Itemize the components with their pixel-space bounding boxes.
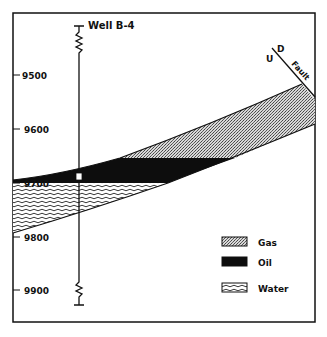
- perforation-marker: [76, 173, 82, 180]
- fault-up-label: U: [266, 54, 273, 64]
- tick-9600: 9600: [24, 125, 49, 135]
- legend-oil-label: Oil: [258, 258, 272, 268]
- legend-oil-swatch: [222, 257, 247, 266]
- legend-gas-label: Gas: [258, 238, 277, 248]
- tick-9700: 9700: [24, 179, 49, 189]
- well-label: Well B-4: [88, 20, 135, 31]
- tick-9900: 9900: [24, 286, 49, 296]
- legend-water-label: Water: [258, 284, 289, 294]
- legend-water-swatch: [222, 283, 247, 292]
- legend-gas-swatch: [222, 237, 247, 246]
- reservoir-cross-section: Fault U D 9500 9600 9700 9800 9900 Well …: [0, 0, 327, 337]
- tick-9800: 9800: [24, 233, 49, 243]
- fault-down-label: D: [277, 44, 284, 54]
- tick-9500: 9500: [22, 71, 47, 81]
